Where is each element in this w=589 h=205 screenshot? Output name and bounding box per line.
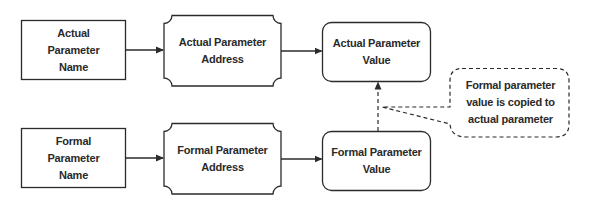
actual-address-label: Actual Parameter Address xyxy=(164,15,281,86)
formal-address-label: Formal Parameter Address xyxy=(164,123,281,194)
actual-value-label: Actual Parameter Value xyxy=(322,22,431,82)
formal-value-label: Formal Parameter Value xyxy=(322,131,431,191)
callout-label: Formal parameter value is copied to actu… xyxy=(452,68,569,137)
formal-name-label: Formal Parameter Name xyxy=(21,128,126,188)
actual-name-label: Actual Parameter Name xyxy=(21,20,126,80)
